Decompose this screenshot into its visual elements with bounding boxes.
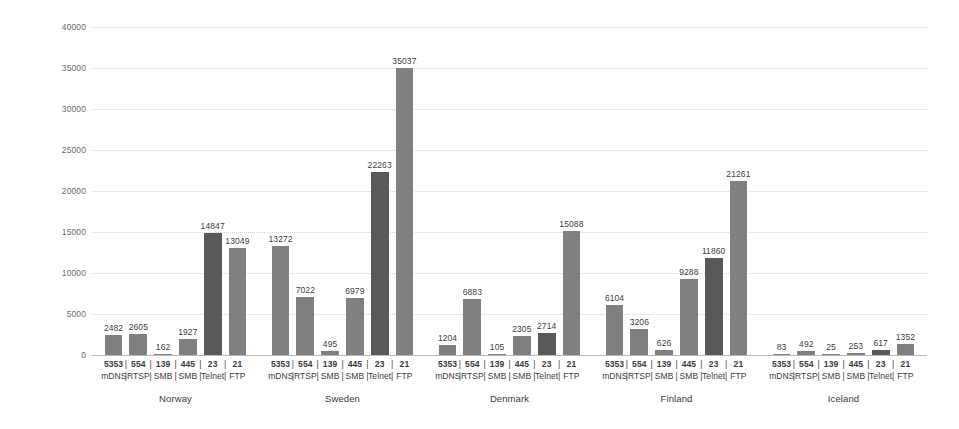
- bar[interactable]: 11860: [705, 27, 723, 355]
- grouped-bar-chart: 0500010000150002000025000300003500040000…: [0, 0, 959, 429]
- bar-value-label: 9288: [679, 267, 698, 277]
- bar-rect: [897, 344, 915, 355]
- bar-value-label: 253: [849, 341, 863, 351]
- bar-value-label: 13049: [225, 236, 249, 246]
- bar-value-label: 626: [657, 338, 671, 348]
- x-axis-group-label: Iceland: [760, 393, 927, 404]
- bar-value-label: 2482: [104, 323, 123, 333]
- bar-rect: [439, 345, 457, 355]
- bar-rect: [272, 246, 290, 355]
- bar[interactable]: 105: [488, 27, 506, 355]
- bar[interactable]: 2305: [513, 27, 531, 355]
- bar[interactable]: 162: [154, 27, 172, 355]
- x-axis-service-label: FTP: [726, 370, 751, 382]
- x-axis: 5353mDNS||554RTSP||139SMB||445SMB||23Tel…: [92, 355, 927, 429]
- x-axis-group-label: Norway: [92, 393, 259, 404]
- bar[interactable]: 1204: [439, 27, 457, 355]
- x-axis-service-label: FTP: [225, 370, 250, 382]
- bar[interactable]: 13272: [272, 27, 290, 355]
- bar-rect: [204, 233, 222, 355]
- bar[interactable]: 2714: [538, 27, 556, 355]
- bar-rect: [346, 298, 364, 355]
- bar-value-label: 162: [156, 342, 170, 352]
- bar[interactable]: 617: [872, 27, 890, 355]
- bar[interactable]: 6883: [463, 27, 481, 355]
- x-axis-service-label: FTP: [893, 370, 918, 382]
- x-axis-service-label: FTP: [559, 370, 584, 382]
- y-axis-tick-label: 40000: [62, 22, 86, 32]
- y-axis: 0500010000150002000025000300003500040000: [0, 0, 92, 429]
- bar-value-label: 1352: [896, 332, 915, 342]
- x-axis-tick: 21FTP: [893, 358, 918, 382]
- bar-rect: [371, 172, 389, 355]
- bar[interactable]: 14847: [204, 27, 222, 355]
- y-axis-tick-label: 0: [81, 350, 86, 360]
- x-axis-port-label: 21: [893, 358, 918, 370]
- bar[interactable]: 2482: [105, 27, 123, 355]
- bar-rect: [606, 305, 624, 355]
- bar[interactable]: 6104: [606, 27, 624, 355]
- bar[interactable]: 1927: [179, 27, 197, 355]
- bar-value-label: 22263: [368, 160, 392, 170]
- bar[interactable]: 83: [773, 27, 791, 355]
- bar-rect: [513, 336, 531, 355]
- bar[interactable]: 15088: [563, 27, 581, 355]
- bar[interactable]: 22263: [371, 27, 389, 355]
- x-axis-group-label: Finland: [593, 393, 760, 404]
- y-axis-tick-label: 5000: [67, 309, 86, 319]
- bar-rect: [105, 335, 123, 355]
- bar-value-label: 7022: [296, 285, 315, 295]
- bar-rect: [296, 297, 314, 355]
- bar-value-label: 2714: [537, 321, 556, 331]
- x-axis-group-label: Sweden: [259, 393, 426, 404]
- x-axis-port-label: 21: [559, 358, 584, 370]
- bar[interactable]: 21261: [730, 27, 748, 355]
- bar-rect: [705, 258, 723, 355]
- bars-layer: 2482260516219271484713049132727022495697…: [92, 27, 927, 355]
- bar[interactable]: 7022: [296, 27, 314, 355]
- x-axis-port-label: 21: [726, 358, 751, 370]
- bar-value-label: 492: [799, 339, 813, 349]
- bar-value-label: 6104: [605, 293, 624, 303]
- bar-value-label: 2605: [129, 322, 148, 332]
- x-axis-tick: 21FTP: [559, 358, 584, 382]
- y-axis-tick-label: 25000: [62, 145, 86, 155]
- bar-rect: [563, 231, 581, 355]
- bar-value-label: 35037: [392, 56, 416, 66]
- bar-rect: [463, 299, 481, 355]
- bar[interactable]: 25: [822, 27, 840, 355]
- x-axis-tick: 21FTP: [392, 358, 417, 382]
- y-axis-tick-label: 35000: [62, 63, 86, 73]
- x-axis-port-label: 21: [392, 358, 417, 370]
- bar[interactable]: 13049: [229, 27, 247, 355]
- bar-value-label: 13272: [268, 234, 292, 244]
- bar-value-label: 6883: [463, 287, 482, 297]
- bar-rect: [179, 339, 197, 355]
- bar[interactable]: 9288: [680, 27, 698, 355]
- bar[interactable]: 495: [321, 27, 339, 355]
- bar-value-label: 495: [323, 339, 337, 349]
- y-axis-tick-label: 15000: [62, 227, 86, 237]
- y-axis-tick-label: 20000: [62, 186, 86, 196]
- bar-value-label: 83: [777, 342, 787, 352]
- bar-value-label: 15088: [559, 219, 583, 229]
- bar[interactable]: 35037: [396, 27, 414, 355]
- bar[interactable]: 1352: [897, 27, 915, 355]
- bar-value-label: 1927: [178, 327, 197, 337]
- bar[interactable]: 6979: [346, 27, 364, 355]
- bar-value-label: 11860: [702, 246, 726, 256]
- x-axis-group-label: Denmark: [426, 393, 593, 404]
- x-axis-tick: 21FTP: [225, 358, 250, 382]
- bar[interactable]: 626: [655, 27, 673, 355]
- bar-value-label: 25: [826, 342, 836, 352]
- bar[interactable]: 2605: [129, 27, 147, 355]
- bar-value-label: 1204: [438, 333, 457, 343]
- y-axis-tick-label: 10000: [62, 268, 86, 278]
- bar-value-label: 3206: [630, 317, 649, 327]
- x-axis-service-label: FTP: [392, 370, 417, 382]
- bar-rect: [129, 334, 147, 355]
- bar[interactable]: 253: [847, 27, 865, 355]
- bar-value-label: 617: [873, 338, 887, 348]
- bar[interactable]: 492: [797, 27, 815, 355]
- bar[interactable]: 3206: [630, 27, 648, 355]
